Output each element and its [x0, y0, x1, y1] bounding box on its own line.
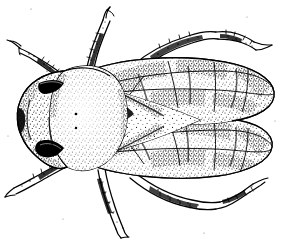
insect-illustration-figure [0, 0, 283, 242]
insect-drawing-svg [0, 0, 283, 242]
pronotum-puncture-1 [75, 113, 78, 116]
pronotum-puncture-2 [75, 127, 77, 129]
